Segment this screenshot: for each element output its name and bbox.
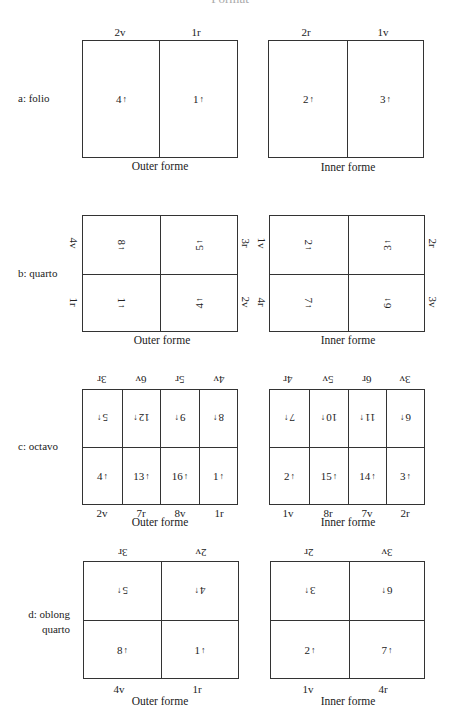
page-cell: 4↑ xyxy=(171,265,227,341)
leaf-label: 1r xyxy=(182,683,212,695)
outer-forme-octavo: 5↑ 12↑ 9↑ 8↑ 4↑ 13↑ 16↑ 1↑ xyxy=(82,389,238,505)
leaf-label: 3v xyxy=(372,547,402,559)
leaf-label: 4r xyxy=(256,290,268,314)
arrow-up-icon: ↑ xyxy=(145,471,150,481)
arrow-up-icon: ↑ xyxy=(291,471,296,481)
arrow-up-icon: ↑ xyxy=(201,645,206,655)
page-cell: 1↑ xyxy=(94,265,150,342)
arrow-up-icon: ↑ xyxy=(175,414,180,424)
leaf-label: 4r xyxy=(278,374,298,386)
leaf-label: 1r xyxy=(178,26,214,38)
arrow-up-icon: ↑ xyxy=(400,414,405,424)
page-cell: 5↑ xyxy=(84,562,161,620)
forme-caption: Outer forme xyxy=(80,516,240,528)
arrow-up-icon: ↑ xyxy=(194,298,204,303)
leaf-label: 2v xyxy=(102,26,138,38)
page-cell: 1↑ xyxy=(162,621,238,678)
forme-caption: Outer forme xyxy=(82,334,242,346)
forme-caption: Inner forme xyxy=(268,695,428,707)
arrow-up-icon: ↑ xyxy=(194,240,204,245)
leaf-label: 2r xyxy=(294,547,324,559)
arrow-up-icon: ↑ xyxy=(371,471,376,481)
page-cell: 3↑ xyxy=(348,41,423,157)
leaf-label: 3v xyxy=(395,374,415,386)
arrow-up-icon: ↑ xyxy=(304,304,314,309)
inner-forme-folio: 2↑ 3↑ xyxy=(268,40,424,158)
page-cell: 2↑ xyxy=(270,448,309,504)
format-label-oblong-quarto-line2: quarto xyxy=(22,623,70,635)
inner-forme-octavo: 7↑ 10↑ 11↑ 6↑ 2↑ 15↑ 14↑ 3↑ xyxy=(269,389,425,505)
leaf-label: 1v xyxy=(293,683,323,695)
leaf-label: 2r xyxy=(288,26,324,38)
leaf-label: 4v xyxy=(68,231,80,255)
outer-forme-oblong-quarto: 5↑ 4↑ 8↑ 1↑ xyxy=(83,561,239,679)
leaf-label: 3v xyxy=(427,290,439,314)
page-cell: 14↑ xyxy=(349,448,386,504)
arrow-up-icon: ↑ xyxy=(305,586,310,596)
forme-caption: Inner forme xyxy=(268,334,428,346)
arrow-up-icon: ↑ xyxy=(382,586,387,596)
leaf-label: 6r xyxy=(357,374,377,386)
arrow-up-icon: ↑ xyxy=(304,246,314,251)
page-cell: 16↑ xyxy=(161,448,199,504)
arrow-up-icon: ↑ xyxy=(184,471,189,481)
arrow-up-icon: ↑ xyxy=(333,471,338,481)
arrow-up-icon: ↑ xyxy=(124,645,129,655)
leaf-label: 3r xyxy=(92,374,112,386)
arrow-up-icon: ↑ xyxy=(104,471,109,481)
arrow-up-icon: ↑ xyxy=(382,240,392,245)
outer-forme-quarto: 8↑ 5↑ 1↑ 4↑ xyxy=(82,215,238,332)
arrow-up-icon: ↑ xyxy=(359,414,364,424)
arrow-up-icon: ↑ xyxy=(133,414,138,424)
arrow-up-icon: ↑ xyxy=(117,586,122,596)
forme-caption: Outer forme xyxy=(80,695,240,707)
leaf-label: 3r xyxy=(240,231,252,255)
page-cell: 4↑ xyxy=(83,448,122,504)
arrow-up-icon: ↑ xyxy=(195,586,200,596)
arrow-up-icon: ↑ xyxy=(284,414,289,424)
page-cell: 7↑ xyxy=(270,390,309,447)
page-cell: 6↑ xyxy=(350,562,424,620)
page-cell: 8↑ xyxy=(200,390,237,447)
page-cell: 10↑ xyxy=(310,390,348,447)
leaf-label: 1r xyxy=(68,290,80,314)
page-cell: 1↑ xyxy=(160,41,237,157)
leaf-label: 3r xyxy=(108,547,138,559)
page-cell: 1↑ xyxy=(200,448,237,504)
arrow-up-icon: ↑ xyxy=(200,94,205,104)
page-cell: 12↑ xyxy=(123,390,160,447)
page-header: Format xyxy=(160,0,300,7)
page-cell: 5↑ xyxy=(83,390,122,447)
page-cell: 2↑ xyxy=(269,41,348,157)
leaf-label: 1v xyxy=(365,26,401,38)
arrow-up-icon: ↑ xyxy=(97,414,102,424)
page-cell: 9↑ xyxy=(161,390,199,447)
arrow-up-icon: ↑ xyxy=(310,94,315,104)
forme-caption: Inner forme xyxy=(268,516,428,528)
page-cell: 13↑ xyxy=(123,448,160,504)
arrow-up-icon: ↑ xyxy=(388,645,393,655)
page-cell: 3↑ xyxy=(271,562,349,620)
page-cell: 2↑ xyxy=(271,621,349,678)
page-cell: 6↑ xyxy=(359,266,415,341)
page-cell: 11↑ xyxy=(349,390,386,447)
format-label-oblong-quarto: d: oblong xyxy=(22,608,70,620)
page-cell: 4↑ xyxy=(162,562,238,620)
forme-caption: Inner forme xyxy=(268,161,428,173)
leaf-label: 4r xyxy=(368,683,398,695)
arrow-up-icon: ↑ xyxy=(117,246,127,251)
leaf-label: 5r xyxy=(170,374,190,386)
arrow-up-icon: ↑ xyxy=(321,414,326,424)
page-cell: 15↑ xyxy=(310,448,348,504)
inner-forme-oblong-quarto: 3↑ 6↑ 2↑ 7↑ xyxy=(270,561,425,679)
page-cell: 4↑ xyxy=(83,41,160,157)
format-label-folio: a: folio xyxy=(18,92,49,104)
arrow-up-icon: ↑ xyxy=(311,645,316,655)
page-cell: 7↑ xyxy=(281,264,337,342)
arrow-up-icon: ↑ xyxy=(220,471,225,481)
leaf-label: 2v xyxy=(240,290,252,314)
leaf-label: 2v xyxy=(186,547,216,559)
page-cell: 7↑ xyxy=(350,621,424,678)
arrow-up-icon: ↑ xyxy=(387,94,392,104)
leaf-label: 1v xyxy=(256,231,268,255)
